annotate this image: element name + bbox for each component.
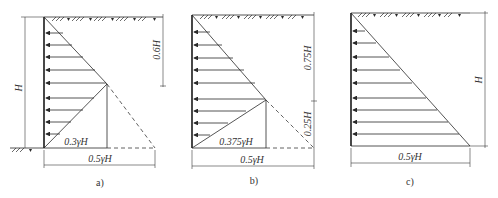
caption-b: b) <box>250 175 258 187</box>
label-lower-depth: 0.25H <box>302 111 313 137</box>
pressure-envelope <box>44 17 107 148</box>
ground-hatch <box>52 17 156 21</box>
label-height: H <box>473 76 484 85</box>
pressure-arrows <box>353 31 459 134</box>
caption-a: a) <box>96 177 104 189</box>
label-inner-width: 0.3γH <box>64 136 88 147</box>
pressure-envelope <box>351 13 470 146</box>
label-upper-depth: 0.6H <box>151 39 162 60</box>
panel-b: 0.75H 0.25H 0.375γH 0.5γH b) <box>192 12 317 187</box>
panel-a: H 0.6H 0.3γH 0.5γH a) <box>10 14 166 189</box>
label-upper-depth: 0.75H <box>302 45 313 71</box>
ground-hatch <box>200 15 304 19</box>
panel-c: H 0.5γH c) <box>351 11 488 188</box>
label-outer-width: 0.5γH <box>240 154 264 165</box>
base-hatch <box>12 148 32 152</box>
earth-pressure-diagrams: H 0.6H 0.3γH 0.5γH a) <box>0 0 498 198</box>
pressure-arrows <box>194 32 265 135</box>
ground-hatch <box>358 13 461 17</box>
pressure-arrows <box>46 33 106 134</box>
triangle-extension-dashed <box>107 84 155 148</box>
label-outer-width: 0.5γH <box>88 153 112 164</box>
pressure-envelope <box>192 15 266 148</box>
label-inner-width: 0.375γH <box>219 136 253 147</box>
caption-c: c) <box>406 176 414 188</box>
label-outer-width: 0.5γH <box>398 151 422 162</box>
label-height: H <box>13 84 24 93</box>
